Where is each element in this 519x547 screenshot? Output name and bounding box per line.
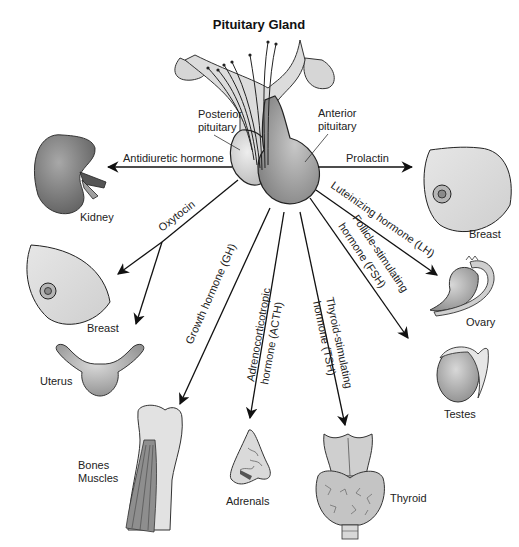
gh-label: Growth hormone (GH) <box>183 242 238 346</box>
anterior-leader-line <box>305 134 328 162</box>
adrenals-illustration <box>230 430 270 484</box>
uterus-illustration <box>56 344 144 396</box>
posterior-pituitary-label: Posterior pituitary <box>198 108 245 133</box>
pituitary-diagram: Pituitary Gland Posterior pi <box>0 0 519 547</box>
ovary-illustration <box>430 256 494 316</box>
right-breast-label: Breast <box>469 228 501 240</box>
thyroid-label: Thyroid <box>390 492 427 504</box>
uterus-label: Uterus <box>40 375 73 387</box>
oxytocin-label: Oxytocin <box>156 198 197 234</box>
bones-muscles-label: Bones Muscles <box>78 459 119 484</box>
thyroid-illustration <box>316 434 384 539</box>
bone-muscle-illustration <box>126 405 182 532</box>
anterior-pituitary-label: Anterior pituitary <box>318 107 360 132</box>
adrenals-label: Adrenals <box>226 495 270 507</box>
diagram-title: Pituitary Gland <box>213 17 306 32</box>
left-breast-illustration <box>27 245 110 324</box>
oxytocin-breast-arrow <box>118 242 162 274</box>
diagram-canvas: Pituitary Gland Posterior pi <box>0 0 519 547</box>
ovary-label: Ovary <box>466 316 496 328</box>
testes-illustration <box>437 347 488 402</box>
right-breast-illustration <box>424 147 511 231</box>
prolactin-label: Prolactin <box>346 152 389 164</box>
kidney-label: Kidney <box>80 211 114 223</box>
adh-label: Antidiuretic hormone <box>123 152 224 164</box>
kidney-illustration <box>34 135 106 214</box>
testes-label: Testes <box>444 408 476 420</box>
oxytocin-uterus-arrow <box>136 242 162 324</box>
left-breast-label: Breast <box>87 322 119 334</box>
